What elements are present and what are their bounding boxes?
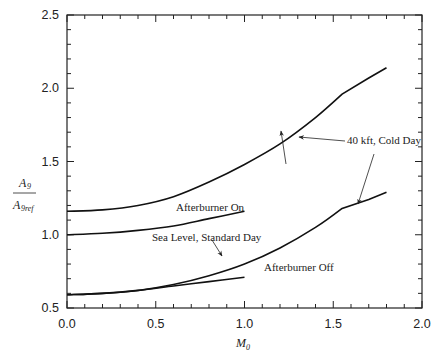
annotation-afterburner-on: Afterburner On (176, 201, 245, 213)
x-axis-title: M 0 (235, 336, 250, 352)
y-tick-label: 0.5 (42, 301, 59, 315)
svg-text:A: A (12, 198, 21, 212)
annotation-afterburner-off: Afterburner Off (264, 261, 334, 273)
y-tick-label: 1.5 (42, 155, 59, 169)
chart: 0.00.51.01.52.00.51.01.52.02.5 Afterburn… (0, 0, 439, 360)
annotation-sea-level: Sea Level, Standard Day (152, 231, 262, 243)
sea-level-arrow-up (281, 131, 286, 164)
svg-text:0: 0 (246, 343, 250, 352)
cold-day-arrow-lower (358, 154, 374, 204)
y-tick-label: 2.0 (42, 81, 59, 95)
x-tick-label: 0.5 (147, 317, 164, 331)
x-tick-label: 2.0 (413, 317, 430, 331)
series-line-0 (67, 68, 387, 212)
x-tick-label: 1.5 (325, 317, 342, 331)
y-axis-title: A 9 A 9ref (12, 176, 36, 213)
x-tick-label: 1.0 (236, 317, 253, 331)
y-tick-label: 1.0 (42, 228, 59, 242)
svg-text:9ref: 9ref (21, 204, 35, 213)
y-tick-label: 2.5 (42, 8, 59, 22)
svg-text:A: A (18, 176, 27, 190)
annotation-40kft-cold-day: 40 kft, Cold Day (347, 134, 421, 146)
data-series (67, 68, 387, 295)
x-tick-label: 0.0 (58, 317, 75, 331)
cold-day-arrow-upper (299, 137, 345, 141)
svg-text:9: 9 (27, 182, 31, 191)
series-line-3 (67, 277, 245, 295)
